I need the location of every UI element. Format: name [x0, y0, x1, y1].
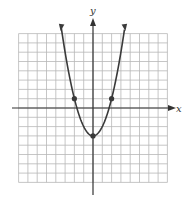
data-point: [90, 133, 95, 138]
data-point: [109, 96, 114, 101]
data-point: [72, 96, 77, 101]
y-axis-label: y: [89, 5, 96, 16]
graph: x y: [0, 0, 195, 203]
x-axis-label: x: [176, 103, 182, 114]
axes: [12, 18, 176, 195]
